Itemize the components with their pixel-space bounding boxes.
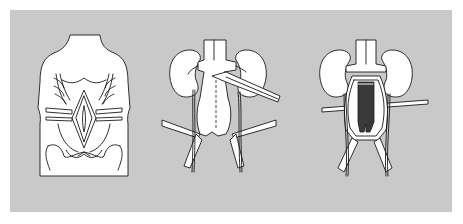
surgical-illustration xyxy=(0,0,463,224)
panel-2-aorta-exposure xyxy=(162,40,280,172)
panel-1-torso xyxy=(38,35,130,176)
panel-3-graft-placement xyxy=(320,40,428,176)
